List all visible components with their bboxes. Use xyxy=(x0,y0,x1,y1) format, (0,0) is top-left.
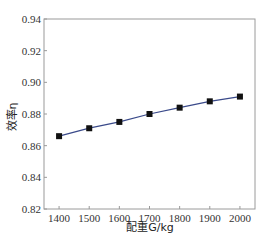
x-axis-label: 配重G/kg xyxy=(126,220,174,234)
y-tick-label: 0.82 xyxy=(22,203,41,215)
y-tick-label: 0.94 xyxy=(22,13,42,25)
x-tick-label: 1900 xyxy=(199,212,222,224)
data-point-marker xyxy=(147,111,153,117)
y-tick-label: 0.84 xyxy=(22,171,42,183)
data-point-marker xyxy=(237,94,243,100)
data-point-marker xyxy=(177,105,183,111)
data-point-marker xyxy=(86,125,92,131)
x-tick-label: 1400 xyxy=(48,212,71,224)
y-axis-label: 效率η xyxy=(5,102,19,131)
x-tick-label: 2000 xyxy=(229,212,252,224)
y-tick-label: 0.88 xyxy=(22,108,42,120)
y-tick-label: 0.86 xyxy=(22,140,42,152)
x-tick-label: 1500 xyxy=(78,212,101,224)
data-point-marker xyxy=(116,119,122,125)
chart: 0.820.840.860.880.900.920.94 14001500160… xyxy=(0,0,263,239)
y-tick-label: 0.90 xyxy=(22,76,42,88)
data-point-marker xyxy=(56,133,62,139)
y-tick-label: 0.92 xyxy=(22,45,41,57)
y-axis: 0.820.840.860.880.900.920.94 xyxy=(22,13,47,215)
data-point-marker xyxy=(207,98,213,104)
